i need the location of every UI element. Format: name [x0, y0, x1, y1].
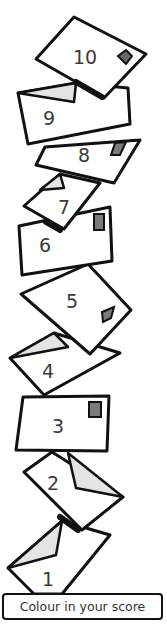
stamp-icon: [94, 214, 104, 230]
envelope-number: 9: [43, 107, 55, 129]
envelope-3[interactable]: 3: [16, 396, 109, 451]
colour-in-score-label: Colour in your score: [2, 593, 163, 620]
envelope-stack: 1 2 3 4 5 6 7 8: [0, 0, 167, 629]
envelope-number: 6: [39, 234, 51, 256]
envelope-number: 5: [66, 290, 78, 312]
envelope-number: 8: [78, 144, 90, 166]
envelope-4[interactable]: 4: [10, 333, 120, 395]
envelope-9[interactable]: 9: [18, 83, 130, 144]
label-text: Colour in your score: [20, 599, 146, 614]
envelope-number: 1: [42, 568, 54, 590]
envelope-number: 7: [58, 196, 70, 218]
envelope-8[interactable]: 8: [36, 140, 140, 183]
envelope-number: 10: [73, 46, 97, 68]
stamp-icon: [89, 402, 101, 417]
envelope-1[interactable]: 1: [8, 521, 110, 594]
envelope-number: 4: [42, 360, 54, 382]
envelope-number: 2: [47, 472, 59, 494]
envelope-5[interactable]: 5: [21, 264, 131, 354]
envelope-number: 3: [52, 415, 64, 437]
envelope-2[interactable]: 2: [24, 452, 123, 530]
